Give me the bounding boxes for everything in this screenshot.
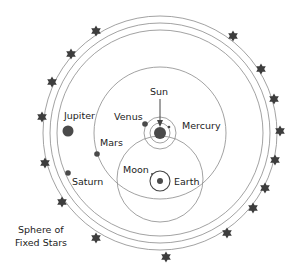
star-icon: [228, 31, 238, 42]
star-icon: [270, 155, 280, 166]
fixed-stars-label-line1: Sphere of: [18, 224, 64, 235]
star-icon: [47, 77, 57, 88]
star-icon: [66, 49, 76, 60]
venus-label: Venus: [114, 111, 143, 122]
star-icon: [91, 233, 101, 244]
fixed-stars-label-line2: Fixed Stars: [15, 237, 67, 248]
tychonic-system-diagram: Sun Venus Mercury Jupiter Mars Saturn Mo…: [0, 0, 301, 277]
mars-label: Mars: [100, 137, 123, 148]
moon-icon: [151, 173, 153, 175]
star-icon: [91, 26, 101, 37]
moon-label: Moon: [123, 164, 149, 175]
sun-icon: [154, 127, 166, 139]
sun-label: Sun: [150, 86, 168, 97]
mercury-icon: [168, 126, 171, 129]
mars-icon: [94, 151, 100, 157]
earth-icon: [157, 178, 163, 184]
star-icon: [161, 252, 171, 263]
star-icon: [37, 112, 47, 123]
saturn-icon: [65, 170, 71, 176]
jupiter-label: Jupiter: [63, 110, 95, 121]
jupiter-icon: [63, 126, 74, 137]
fixed-stars: [37, 26, 285, 263]
star-icon: [260, 183, 270, 194]
saturn-label: Saturn: [72, 176, 103, 187]
sun-arrow-icon: [157, 99, 163, 127]
star-icon: [222, 228, 232, 239]
earth-label: Earth: [174, 176, 199, 187]
venus-icon: [142, 121, 148, 127]
mercury-label: Mercury: [182, 120, 221, 131]
